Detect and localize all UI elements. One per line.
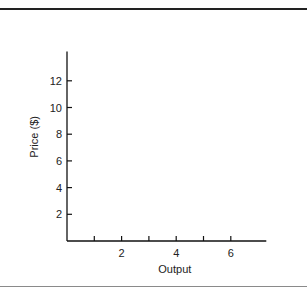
x-tick-label: 2 [119,247,125,259]
y-tick-label: 2 [56,208,62,220]
x-axis-title: Output [158,263,191,275]
y-tick-label: 6 [56,155,62,167]
chart: 24681012 246 Price ($) Output [0,0,307,296]
x-tick-label: 6 [228,247,234,259]
y-tick-label: 12 [50,75,62,87]
x-tick-label: 4 [173,247,179,259]
y-axis-title: Price ($) [28,116,40,158]
y-tick-label: 4 [56,182,62,194]
y-tick-label: 8 [56,128,62,140]
y-tick-label: 10 [50,102,62,114]
bottom-rule [0,286,307,287]
plot-area: 24681012 246 Price ($) Output [28,51,266,275]
